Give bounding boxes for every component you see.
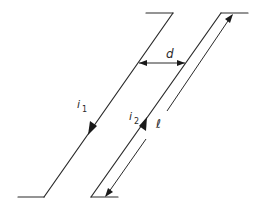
current-1-label: i 1 [77, 98, 87, 114]
diagram-canvas: d i 1 i 2 ℓ [0, 0, 264, 212]
current-1-label-sub: 1 [82, 105, 87, 114]
wire-2 [91, 13, 248, 197]
length-label: ℓ [155, 117, 161, 131]
separation-arrow-left-icon [139, 60, 147, 66]
current-2-label-main: i [129, 110, 132, 123]
separation-label: d [166, 47, 174, 61]
length-arrow-top-icon [225, 14, 233, 23]
wire-2-conductor [91, 13, 221, 197]
conductors-diagram: d i 1 i 2 ℓ [0, 0, 264, 212]
length-dimension [105, 14, 233, 197]
wire-1-conductor [44, 13, 173, 197]
separation-dimension [139, 60, 185, 66]
current-2-label: i 2 [129, 110, 139, 126]
wire-1 [18, 13, 173, 197]
current-1-label-main: i [77, 98, 80, 111]
current-2-label-sub: 2 [134, 117, 139, 126]
current-2-arrow-icon [139, 117, 147, 131]
length-arrow-bottom-icon [105, 188, 113, 197]
